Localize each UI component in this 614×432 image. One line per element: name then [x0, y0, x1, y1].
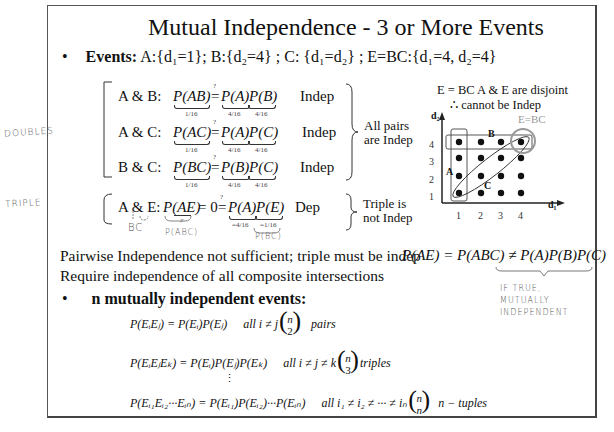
pair-eq: =	[211, 159, 219, 176]
pair-label: A & C:	[118, 124, 161, 141]
pae-formula: P(AE) = P(ABC) ≠ P(A)P(B)P(C)	[402, 247, 606, 264]
handwritten-line: MUTUALLY	[500, 295, 569, 307]
pair-value-b: 4/16	[255, 110, 267, 118]
pair-rhs-b: P(C)	[249, 124, 278, 141]
pair-eq: =	[211, 88, 219, 105]
x-tick: 2	[478, 210, 483, 221]
triple-rhs-b: P(E)	[256, 199, 284, 216]
pair-lhs-value: 1/16	[185, 181, 197, 189]
x-tick: 1	[456, 210, 461, 221]
pair-question: ?	[213, 153, 216, 161]
handwritten-underbrace	[163, 214, 193, 224]
y-tick: 4	[429, 136, 434, 153]
formula-lhs: P(Eᵢ₁Eᵢ₂···Eᵢₙ) = P(Eᵢ₁)P(Eᵢ₂)···P(Eᵢₙ)	[130, 396, 305, 410]
pair-value-b: 4/16	[255, 181, 267, 189]
handwritten-underbrace	[130, 206, 150, 224]
y-tick: 2	[429, 171, 434, 188]
binomial: ( n n )	[410, 392, 428, 416]
handwritten-line: IF TRUE,	[500, 283, 569, 295]
formula-triples: P(EᵢEⱼEₖ) = P(Eᵢ)P(Eⱼ)P(Eₖ) all i ≠ j ≠ …	[130, 352, 391, 376]
pair-result: Indep	[302, 124, 336, 141]
pair-value-a: 4/16	[228, 181, 240, 189]
bullet: •	[62, 290, 68, 307]
pair-value-a: 4/16	[228, 146, 240, 154]
pairs-conclusion-line2: are Indep	[364, 133, 413, 147]
formula-condition: all i ≠ j ≠ k	[283, 356, 336, 370]
pair-question: ?	[213, 118, 216, 126]
pair-lhs: P(AC)	[173, 124, 211, 141]
region-label-b: B	[488, 128, 495, 139]
events-definition: A:{d₁=1}; B:{d₂=4} ; C: {d₁=d₂} ; E=BC:{…	[140, 48, 496, 65]
triple-conclusion: Triple is not Indep	[363, 197, 412, 225]
y-ticks: 4 3 2 1	[429, 136, 434, 205]
n-events-heading: • n mutually independent events:	[62, 290, 306, 308]
events-label: Events:	[86, 48, 138, 65]
binomial: ( n 3 )	[339, 352, 357, 376]
events-line: • Events: A:{d₁=1}; B:{d₂=4} ; C: {d₁=d₂…	[62, 48, 496, 66]
pair-result: Indep	[300, 88, 334, 105]
vdots: ⋮	[224, 372, 235, 385]
handwritten-underbrace	[252, 226, 282, 236]
pair-lhs: P(BC)	[173, 159, 211, 176]
triple-bracket	[100, 192, 114, 226]
pairwise-statement: Pairwise Independence not sufficient; tr…	[60, 247, 421, 265]
composite-statement: Require independence of all composite in…	[60, 267, 384, 285]
pair-lhs-value: 1/16	[185, 146, 197, 154]
triple-rhs-a: P(A)	[228, 199, 256, 216]
pair-label: A & B:	[118, 88, 161, 105]
triple-eq: =	[218, 199, 226, 216]
formula-lhs: P(EᵢEⱼ) = P(Eᵢ)P(Eⱼ)	[130, 317, 227, 331]
triple-conclusion-line2: not Indep	[363, 211, 412, 225]
triple-middle: = 0	[198, 199, 218, 216]
formula-lhs: P(EᵢEⱼEₖ) = P(Eᵢ)P(Eⱼ)P(Eₖ)	[130, 356, 267, 370]
formula-ntuples: P(Eᵢ₁Eᵢ₂···Eᵢₙ) = P(Eᵢ₁)P(Eᵢ₂)···P(Eᵢₙ) …	[130, 392, 487, 416]
handwritten-pabc: P(ABC)	[165, 228, 198, 237]
pair-rhs-a: P(B)	[221, 159, 249, 176]
doubles-bracket	[100, 80, 114, 180]
x-tick: 4	[518, 210, 523, 221]
binomial: ( n 2 )	[281, 313, 299, 337]
region-label-c: C	[484, 180, 491, 191]
pae-underbrace	[494, 265, 594, 277]
region-label-e: E=BC	[518, 113, 546, 125]
formula-pairs: P(EᵢEⱼ) = P(Eᵢ)P(Eⱼ) all i ≠ j ( n 2 ) p…	[130, 313, 336, 337]
pair-eq: =	[211, 124, 219, 141]
pair-rhs-b: P(C)	[249, 159, 278, 176]
region-label-a: A	[446, 166, 453, 177]
formula-suffix: pairs	[311, 317, 336, 331]
disjoint-note-line1: E = BC A & E are disjoint	[437, 83, 568, 98]
handwritten-if-true: IF TRUE, MUTUALLY INDEPENDENT	[500, 283, 569, 319]
bullet: •	[62, 48, 68, 65]
pairs-conclusion: All pairs are Indep	[364, 119, 413, 147]
triple-result: Dep	[295, 199, 320, 216]
pair-value-a: 4/16	[228, 110, 240, 118]
pair-label: B & C:	[118, 159, 161, 176]
pair-result: Indep	[300, 159, 334, 176]
handwritten-line: INDEPENDENT	[500, 307, 569, 319]
x-axis-label: d₁	[548, 199, 557, 210]
y-tick: 1	[429, 188, 434, 205]
y-tick: 3	[429, 153, 434, 170]
pair-question: ?	[213, 82, 216, 90]
handwritten-triple: TRIPLE	[5, 197, 42, 209]
triple-brace	[344, 192, 360, 232]
pairs-brace	[344, 82, 360, 182]
pair-lhs-value: 1/16	[185, 110, 197, 118]
triple-conclusion-line1: Triple is	[363, 197, 412, 211]
slide-title: Mutual Independence - 3 or More Events	[148, 14, 544, 41]
triple-question: ?	[220, 193, 223, 201]
pair-value-b: 4/16	[255, 146, 267, 154]
formula-condition: all i₁ ≠ i₂ ≠ ··· ≠ iₙ	[321, 396, 407, 410]
pair-rhs-a: P(A)	[221, 88, 249, 105]
y-axis-label: d₂	[431, 110, 440, 121]
formula-suffix: n − tuples	[438, 396, 487, 410]
pairs-conclusion-line1: All pairs	[364, 119, 413, 133]
x-tick: 3	[498, 210, 503, 221]
pair-rhs-b: P(B)	[249, 88, 277, 105]
n-events-label: n mutually independent events:	[92, 290, 307, 307]
formula-condition: all i ≠ j	[243, 317, 278, 331]
pair-rhs-a: P(A)	[221, 124, 249, 141]
formula-suffix: triples	[360, 356, 391, 370]
triple-value-a: =4/16	[232, 221, 248, 229]
pair-lhs: P(AB)	[173, 88, 210, 105]
